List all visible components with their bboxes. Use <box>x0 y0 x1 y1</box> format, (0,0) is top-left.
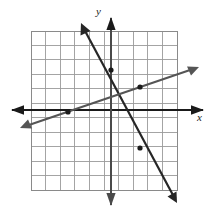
x-axis-label: x <box>197 112 202 123</box>
coordinate-plane-figure: y x <box>0 0 215 220</box>
y-axis-bottom-arrowhead <box>106 193 115 206</box>
gentle-line-point-right <box>137 84 142 89</box>
steep-line-point-lower <box>137 145 142 150</box>
plot-canvas <box>0 0 215 220</box>
steep-line-point-upper <box>108 67 113 72</box>
steep-decreasing-line <box>84 29 174 197</box>
y-axis-top-arrowhead <box>106 17 115 30</box>
x-axis-left-arrowhead <box>11 105 24 115</box>
y-axis-label: y <box>96 6 101 17</box>
gentle-line-point-left <box>65 109 70 114</box>
